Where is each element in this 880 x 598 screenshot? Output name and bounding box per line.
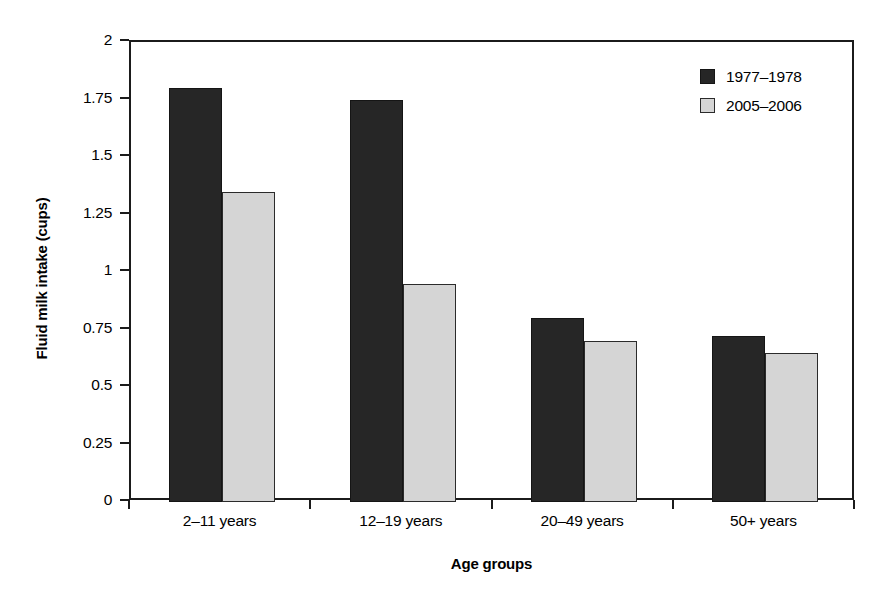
y-tick-mark bbox=[120, 442, 129, 444]
y-tick-mark bbox=[120, 327, 129, 329]
x-tick-label-group-2: 12–19 years bbox=[301, 512, 501, 530]
bar-series-b-group-4 bbox=[765, 353, 818, 503]
x-tick-mark bbox=[672, 500, 674, 509]
y-tick-label: 0.25 bbox=[2, 435, 112, 451]
legend-label: 2005–2006 bbox=[726, 97, 802, 115]
x-tick-mark bbox=[128, 500, 130, 509]
legend-item-2: 2005–2006 bbox=[700, 91, 850, 120]
y-tick-label: 1.5 bbox=[2, 147, 112, 163]
chart-figure: Fluid milk intake (cups) 21.751.51.2510.… bbox=[0, 0, 880, 598]
bar-series-a-group-1 bbox=[169, 88, 222, 502]
x-tick-label-group-3: 20–49 years bbox=[482, 512, 682, 530]
y-tick-label: 0 bbox=[2, 492, 112, 508]
legend-item-1: 1977–1978 bbox=[700, 62, 850, 91]
bar-series-b-group-1 bbox=[222, 192, 275, 503]
y-tick-mark bbox=[120, 384, 129, 386]
y-tick-label: 1 bbox=[2, 262, 112, 278]
bar-series-b-group-2 bbox=[403, 284, 456, 503]
y-tick-mark bbox=[120, 154, 129, 156]
bar-series-a-group-2 bbox=[350, 100, 403, 503]
x-tick-mark bbox=[309, 500, 311, 509]
bar-series-b-group-3 bbox=[584, 341, 637, 502]
y-tick-mark bbox=[120, 269, 129, 271]
legend-swatch-icon-series-a bbox=[700, 69, 715, 84]
legend-swatch-icon-series-b bbox=[700, 98, 715, 113]
y-tick-label: 1.75 bbox=[2, 90, 112, 106]
y-tick-label: 2 bbox=[2, 32, 112, 48]
y-tick-mark bbox=[120, 97, 129, 99]
y-tick-label: 0.75 bbox=[2, 320, 112, 336]
x-tick-label-group-4: 50+ years bbox=[663, 512, 863, 530]
y-tick-mark bbox=[120, 39, 129, 41]
x-tick-label-group-1: 2–11 years bbox=[120, 512, 320, 530]
y-tick-label: 0.5 bbox=[2, 377, 112, 393]
bar-series-a-group-4 bbox=[712, 336, 765, 502]
x-axis-title: Age groups bbox=[129, 555, 854, 572]
y-tick-mark bbox=[120, 212, 129, 214]
x-tick-mark bbox=[853, 500, 855, 509]
y-tick-label: 1.25 bbox=[2, 205, 112, 221]
bar-series-a-group-3 bbox=[531, 318, 584, 502]
legend-label: 1977–1978 bbox=[726, 68, 802, 86]
chart-legend: 1977–19782005–2006 bbox=[700, 62, 850, 120]
x-tick-mark bbox=[491, 500, 493, 509]
